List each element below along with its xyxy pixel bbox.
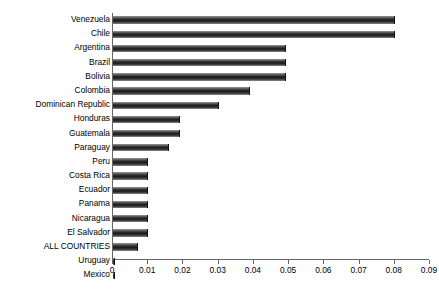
bar-track xyxy=(113,187,430,194)
bar-row: Colombia xyxy=(0,84,439,98)
bar-row: Panama xyxy=(0,197,439,211)
bar-track xyxy=(113,215,430,222)
bar-row: Peru xyxy=(0,155,439,169)
bar xyxy=(113,215,148,222)
x-axis-tick-label: 0.04 xyxy=(233,265,273,276)
x-axis-tick xyxy=(323,260,324,264)
bar-row: Argentina xyxy=(0,41,439,55)
x-axis-tick-label: 0.06 xyxy=(303,265,343,276)
bar-track xyxy=(113,102,430,109)
bar-category-label: Chile xyxy=(0,28,110,39)
bar xyxy=(113,59,286,66)
x-axis-tick-label: 0.09 xyxy=(409,265,439,276)
bar-row: Costa Rica xyxy=(0,169,439,183)
bar-track xyxy=(113,116,430,123)
bar-category-label: Brazil xyxy=(0,57,110,68)
bar xyxy=(113,158,148,165)
x-axis-tick xyxy=(253,260,254,264)
bar-track xyxy=(113,16,430,23)
x-axis-tick xyxy=(394,260,395,264)
bar xyxy=(113,172,148,179)
x-axis-tick xyxy=(359,260,360,264)
bar-row: Honduras xyxy=(0,112,439,126)
bar-track xyxy=(113,172,430,179)
x-axis-tick xyxy=(429,260,430,264)
bar-track xyxy=(113,229,430,236)
bar xyxy=(113,31,395,38)
bar xyxy=(113,201,148,208)
bar-row: El Salvador xyxy=(0,226,439,240)
bar-row: Venezuela xyxy=(0,13,439,27)
bar-chart: VenezuelaChileArgentinaBrazilBoliviaColo… xyxy=(0,0,439,289)
x-axis-tick-label: 0.03 xyxy=(198,265,238,276)
bar-track xyxy=(113,87,430,94)
bar xyxy=(113,73,286,80)
bar-track xyxy=(113,45,430,52)
bar-category-label: El Salvador xyxy=(0,227,110,238)
x-axis-tick-label: 0.02 xyxy=(162,265,202,276)
bar-track xyxy=(113,144,430,151)
bar xyxy=(113,45,286,52)
bar-category-label: Bolivia xyxy=(0,71,110,82)
bar-track xyxy=(113,158,430,165)
bar-row: Brazil xyxy=(0,56,439,70)
bar-row: ALL COUNTRIES xyxy=(0,240,439,254)
x-axis-tick-label: 0.07 xyxy=(339,265,379,276)
bar xyxy=(113,243,138,250)
bar xyxy=(113,16,395,23)
bar-track xyxy=(113,73,430,80)
bar-category-label: Guatemala xyxy=(0,128,110,139)
bar-category-label: Nicaragua xyxy=(0,213,110,224)
bar-category-label: Colombia xyxy=(0,85,110,96)
x-axis-tick-label: 0.01 xyxy=(127,265,167,276)
bar-row: Guatemala xyxy=(0,127,439,141)
x-axis-tick xyxy=(182,260,183,264)
x-axis-tick xyxy=(112,260,113,264)
x-axis-tick xyxy=(147,260,148,264)
bar-category-label: Argentina xyxy=(0,42,110,53)
bar xyxy=(113,187,148,194)
x-axis-tick-label: 0.08 xyxy=(374,265,414,276)
bar-track xyxy=(113,59,430,66)
bar-category-label: Peru xyxy=(0,156,110,167)
bar-category-label: ALL COUNTRIES xyxy=(0,241,110,252)
x-axis-tick-label: 0.05 xyxy=(268,265,308,276)
bar-track xyxy=(113,243,430,250)
bar-track xyxy=(113,130,430,137)
x-axis-tick xyxy=(218,260,219,264)
bar-track xyxy=(113,258,430,265)
bar-track xyxy=(113,201,430,208)
bar-row: Paraguay xyxy=(0,141,439,155)
bar-row: Chile xyxy=(0,27,439,41)
bar-row: Ecuador xyxy=(0,183,439,197)
bar xyxy=(113,102,219,109)
bar xyxy=(113,144,169,151)
bar-category-label: Honduras xyxy=(0,113,110,124)
bar xyxy=(113,87,250,94)
bar-row: Nicaragua xyxy=(0,212,439,226)
bar-row: Dominican Republic xyxy=(0,98,439,112)
x-axis-tick-label: 0 xyxy=(92,265,132,276)
bar xyxy=(113,229,148,236)
bar-category-label: Dominican Republic xyxy=(0,99,110,110)
bar-category-label: Ecuador xyxy=(0,184,110,195)
bar xyxy=(113,130,180,137)
bar-rows: VenezuelaChileArgentinaBrazilBoliviaColo… xyxy=(0,13,439,283)
bar-row: Bolivia xyxy=(0,70,439,84)
bar-category-label: Costa Rica xyxy=(0,170,110,181)
bar xyxy=(113,258,115,265)
x-axis-tick xyxy=(288,260,289,264)
bar-track xyxy=(113,31,430,38)
bar-category-label: Panama xyxy=(0,198,110,209)
bar xyxy=(113,116,180,123)
bar-category-label: Paraguay xyxy=(0,142,110,153)
bar-category-label: Venezuela xyxy=(0,14,110,25)
